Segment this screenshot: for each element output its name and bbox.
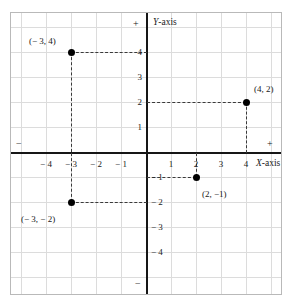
leader-line-horizontal-point-d [71,202,147,203]
data-point[interactable] [68,199,75,206]
data-point[interactable] [193,174,200,181]
data-point-label: (2, −1) [202,190,227,199]
y-tick-label: − 4 [151,248,163,257]
y-axis-title: Y-axis [153,18,177,28]
y-tick-label: 2 [138,98,143,107]
leader-line-vertical-point-b [246,102,247,153]
x-tick-label: 2 [194,160,199,169]
y-axis-negative-sign: − [135,279,141,289]
data-point[interactable] [243,99,250,106]
x-tick-label: 1 [169,160,174,169]
y-tick-label: − 2 [151,198,163,207]
y-axis-positive-sign: + [133,19,139,29]
plot-frame: (− 3, 4) (4, 2) (2, −1) (− 3, − 2) − 4 −… [10,12,282,295]
x-tick-label: 4 [244,160,249,169]
x-tick-label: − 2 [90,160,102,169]
x-axis-title-rest: -axis [262,158,280,168]
data-point-label: (4, 2) [254,85,274,94]
leader-line-horizontal-point-b [147,102,246,103]
x-tick-label: − 1 [115,160,127,169]
x-axis-negative-sign: − [16,139,22,149]
leader-line-horizontal-point-a [71,52,147,53]
data-point-label: (− 3, 4) [29,37,56,46]
leader-line-vertical-point-a [71,52,72,152]
x-tick-label: − 4 [40,160,52,169]
y-tick-label: 4 [138,48,143,57]
x-axis-positive-sign: + [267,139,273,149]
y-tick-label: − 1 [151,173,163,182]
y-tick-label: − 3 [151,223,163,232]
y-tick-label: 3 [138,73,143,82]
data-point-label: (− 3, − 2) [21,215,55,224]
x-tick-label: 3 [219,160,224,169]
y-axis-line [146,13,148,294]
x-axis-title: X-axis [256,159,280,169]
y-axis-title-rest: -axis [158,17,176,27]
data-point[interactable] [68,49,75,56]
x-tick-label: − 3 [65,160,77,169]
coordinate-plane-figure: (− 3, 4) (4, 2) (2, −1) (− 3, − 2) − 4 −… [0,0,292,307]
y-tick-label: 1 [138,123,143,132]
